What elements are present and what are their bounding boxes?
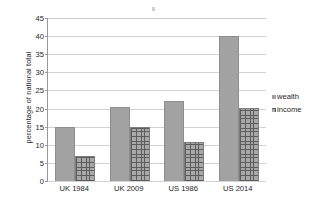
bar-income[interactable] <box>130 127 150 181</box>
y-tick-mark <box>45 181 48 182</box>
crosshatch-square-icon <box>272 108 276 112</box>
bar-income[interactable] <box>75 156 95 181</box>
y-tick-label: 20 <box>36 104 44 113</box>
y-tick-label: 35 <box>36 50 44 59</box>
bar-group <box>157 18 212 181</box>
bars-layer <box>48 18 266 181</box>
bar-income[interactable] <box>239 108 259 181</box>
legend-item-income[interactable]: income <box>272 105 301 114</box>
bar-group <box>212 18 267 181</box>
bar-wealth[interactable] <box>55 127 75 181</box>
y-tick-label: 10 <box>36 140 44 149</box>
legend-label: wealth <box>277 92 299 101</box>
y-tick-label: 45 <box>36 14 44 23</box>
y-tick-label: 5 <box>40 158 44 167</box>
legend-item-wealth[interactable]: wealth <box>272 92 301 101</box>
bar-income[interactable] <box>184 142 204 181</box>
x-axis-labels: UK 1984UK 2009US 1986US 2014 <box>47 184 265 193</box>
y-axis-title: percentage of national total <box>24 13 33 183</box>
y-tick-label: 30 <box>36 68 44 77</box>
chart-legend: wealthincome <box>272 92 301 114</box>
top-artifact-mark <box>152 7 155 11</box>
bar-group <box>103 18 158 181</box>
bar-wealth[interactable] <box>219 36 239 181</box>
y-tick-label: 15 <box>36 122 44 131</box>
bar-wealth[interactable] <box>164 101 184 181</box>
x-tick-label: UK 2009 <box>102 184 157 193</box>
x-tick-label: US 1986 <box>156 184 211 193</box>
y-tick-label: 25 <box>36 86 44 95</box>
x-tick-label: US 2014 <box>211 184 266 193</box>
bar-wealth[interactable] <box>110 107 130 181</box>
solid-gray-square-icon <box>272 95 276 99</box>
y-tick-label: 40 <box>36 32 44 41</box>
bar-chart: percentage of national total 05101520253… <box>0 0 321 207</box>
bar-group <box>48 18 103 181</box>
gridline <box>48 181 266 182</box>
y-tick-label: 0 <box>40 177 44 186</box>
legend-label: income <box>277 105 301 114</box>
plot-area: 051015202530354045 <box>47 18 266 182</box>
x-tick-label: UK 1984 <box>47 184 102 193</box>
bar-groups <box>48 18 266 181</box>
